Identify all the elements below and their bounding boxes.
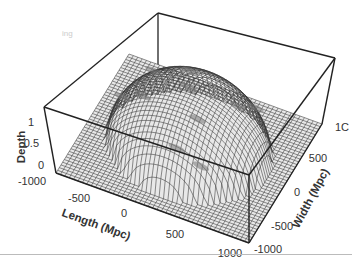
x-tick-neg1000: -1000 <box>18 175 46 187</box>
wireframe-mesh <box>56 54 322 243</box>
z-axis-label: Depth <box>15 131 27 164</box>
y-tick-0: 0 <box>294 186 300 198</box>
y-tick-500: 500 <box>309 152 327 164</box>
x-tick-500: 500 <box>166 228 184 240</box>
watermark-text: ing <box>62 29 73 38</box>
surface-plot: ing 1 0.5 0 Depth -1000 -500 0 500 1000 … <box>0 0 352 268</box>
bottom-rule <box>0 254 352 255</box>
z-tick-0: 0 <box>38 159 44 171</box>
z-tick-1: 1 <box>28 116 34 128</box>
z-axis: 1 0.5 0 Depth <box>15 116 44 171</box>
y-tick-1000: 1C <box>335 121 349 133</box>
x-tick-neg500: -500 <box>68 192 90 204</box>
y-tick-neg500: -500 <box>271 220 293 232</box>
y-axis-label: Width (Mpc) <box>290 166 332 230</box>
x-tick-1000: 1000 <box>218 247 242 259</box>
x-tick-0: 0 <box>121 207 127 219</box>
